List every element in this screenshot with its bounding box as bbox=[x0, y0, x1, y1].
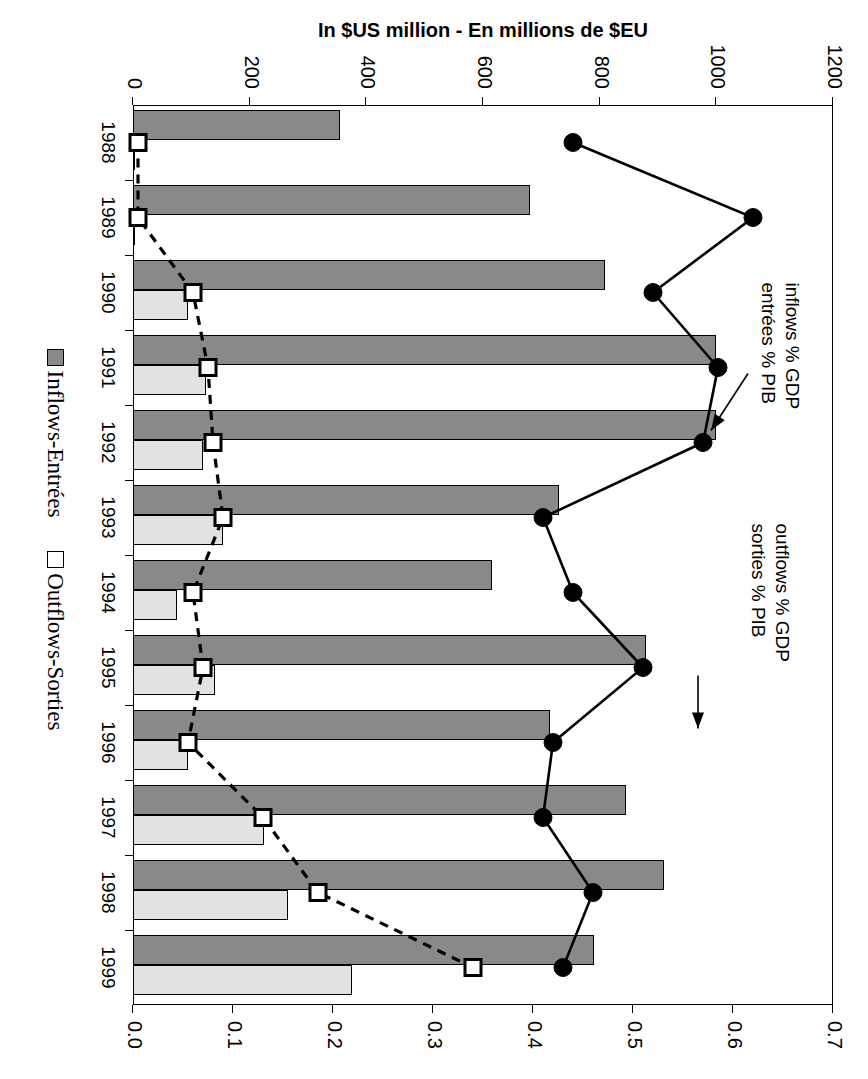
x-axis-tick bbox=[125, 930, 133, 931]
y2-axis-tick-label: 0.4 bbox=[523, 1021, 546, 1049]
bar-inflows-1994[interactable] bbox=[133, 560, 492, 590]
x-axis-tick-label-1988: 1988 bbox=[97, 103, 119, 183]
y-axis-tick-label: 0 bbox=[123, 0, 146, 89]
y-axis-tick-label: 400 bbox=[356, 0, 379, 89]
legend: Inflows-Entrées Outflows-Sorties bbox=[42, 0, 68, 1079]
legend-label-outflows: Outflows-Sorties bbox=[43, 573, 68, 730]
x-axis-tick bbox=[125, 555, 133, 556]
legend-item-inflows[interactable]: Inflows-Entrées bbox=[42, 349, 68, 518]
x-axis-tick bbox=[125, 480, 133, 481]
y2-axis-tick bbox=[432, 1005, 433, 1013]
bar-outflows-1995[interactable] bbox=[133, 665, 215, 695]
bar-inflows-1992[interactable] bbox=[133, 410, 716, 440]
bar-inflows-1989[interactable] bbox=[133, 185, 530, 215]
x-axis-tick bbox=[125, 630, 133, 631]
y-axis-tick bbox=[482, 97, 483, 105]
rotated-chart-wrapper: 0200400600800100012000.00.10.20.30.40.50… bbox=[0, 0, 868, 1079]
y-axis-tick bbox=[132, 97, 133, 105]
bar-outflows-1998[interactable] bbox=[133, 890, 288, 920]
x-axis-tick-label-1991: 1991 bbox=[97, 328, 119, 408]
annotation-inflows-line2: entrées % PIB bbox=[757, 283, 781, 410]
y2-axis-tick bbox=[332, 1005, 333, 1013]
x-axis-tick-label-1997: 1997 bbox=[97, 778, 119, 858]
y2-axis-tick bbox=[632, 1005, 633, 1013]
bar-inflows-1993[interactable] bbox=[133, 485, 559, 515]
bar-inflows-1988[interactable] bbox=[133, 110, 340, 140]
x-axis-tick-label-1992: 1992 bbox=[97, 403, 119, 483]
y2-axis-tick-label: 0.3 bbox=[423, 1021, 446, 1049]
bar-outflows-1990[interactable] bbox=[133, 290, 188, 320]
bar-inflows-1999[interactable] bbox=[133, 935, 594, 965]
y2-axis-tick bbox=[132, 1005, 133, 1013]
x-axis-tick-label-1996: 1996 bbox=[97, 703, 119, 783]
bar-outflows-1988[interactable] bbox=[133, 140, 135, 170]
x-axis-tick-label-1999: 1999 bbox=[97, 928, 119, 1008]
chart-root: 0200400600800100012000.00.10.20.30.40.50… bbox=[0, 0, 868, 1079]
x-axis-tick bbox=[125, 780, 133, 781]
y-axis-tick bbox=[715, 97, 716, 105]
bar-inflows-1991[interactable] bbox=[133, 335, 716, 365]
annotation-outflows-line1: outflows % GDP bbox=[770, 524, 794, 662]
y-axis-tick bbox=[249, 97, 250, 105]
y-axis-tick bbox=[599, 97, 600, 105]
bar-outflows-1997[interactable] bbox=[133, 815, 264, 845]
annotation-outflows-line2: sorties % PIB bbox=[747, 524, 771, 662]
x-axis-tick-label-1998: 1998 bbox=[97, 853, 119, 933]
y-axis-tick-label: 800 bbox=[590, 0, 613, 89]
x-axis-tick bbox=[125, 705, 133, 706]
annotation-inflows: inflows % GDP entrées % PIB bbox=[757, 283, 805, 410]
y2-axis-tick bbox=[532, 1005, 533, 1013]
x-axis-tick-label-1990: 1990 bbox=[97, 253, 119, 333]
y-axis-tick-label: 1200 bbox=[823, 0, 846, 89]
bar-outflows-1992[interactable] bbox=[133, 440, 203, 470]
bar-inflows-1995[interactable] bbox=[133, 635, 646, 665]
x-axis-tick bbox=[125, 855, 133, 856]
annotation-inflows-line1: inflows % GDP bbox=[780, 283, 804, 410]
bar-outflows-1999[interactable] bbox=[133, 965, 352, 995]
y-axis-tick-label: 1000 bbox=[706, 0, 729, 89]
legend-item-outflows[interactable]: Outflows-Sorties bbox=[42, 551, 68, 730]
bar-outflows-1996[interactable] bbox=[133, 740, 188, 770]
bar-inflows-1990[interactable] bbox=[133, 260, 606, 290]
x-axis-tick-label-1993: 1993 bbox=[97, 478, 119, 558]
y-axis-tick bbox=[832, 97, 833, 105]
y-axis-title: In $US million - En millions de $EU bbox=[318, 19, 648, 42]
bar-outflows-1993[interactable] bbox=[133, 515, 223, 545]
bar-outflows-1989[interactable] bbox=[133, 215, 135, 245]
annotation-outflows: outflows % GDP sorties % PIB bbox=[747, 524, 795, 662]
x-axis-tick bbox=[125, 330, 133, 331]
x-axis-tick bbox=[125, 255, 133, 256]
y-axis-tick bbox=[365, 97, 366, 105]
y2-axis-tick bbox=[732, 1005, 733, 1013]
y2-axis-tick-label: 0.6 bbox=[723, 1021, 746, 1049]
y2-axis-tick bbox=[232, 1005, 233, 1013]
y2-axis-tick-label: 0.5 bbox=[623, 1021, 646, 1049]
x-axis-tick-label-1994: 1994 bbox=[97, 553, 119, 633]
bar-outflows-1994[interactable] bbox=[133, 590, 177, 620]
legend-swatch-outflows-icon bbox=[47, 551, 64, 568]
x-axis-tick-label-1989: 1989 bbox=[97, 178, 119, 258]
y2-axis-tick-label: 0.1 bbox=[223, 1021, 246, 1049]
legend-label-inflows: Inflows-Entrées bbox=[43, 371, 68, 518]
x-axis-tick bbox=[125, 180, 133, 181]
y-axis-tick-label: 200 bbox=[240, 0, 263, 89]
bar-inflows-1996[interactable] bbox=[133, 710, 550, 740]
x-axis-tick bbox=[125, 405, 133, 406]
x-axis-tick-label-1995: 1995 bbox=[97, 628, 119, 708]
bar-outflows-1991[interactable] bbox=[133, 365, 206, 395]
y2-axis-tick bbox=[832, 1005, 833, 1013]
y2-axis-tick-label: 0.7 bbox=[823, 1021, 846, 1049]
bar-inflows-1997[interactable] bbox=[133, 785, 626, 815]
y2-axis-tick-label: 0.0 bbox=[123, 1021, 146, 1049]
legend-swatch-inflows-icon bbox=[47, 349, 64, 366]
y2-axis-tick-label: 0.2 bbox=[323, 1021, 346, 1049]
bar-inflows-1998[interactable] bbox=[133, 860, 664, 890]
y-axis-tick-label: 600 bbox=[473, 0, 496, 89]
